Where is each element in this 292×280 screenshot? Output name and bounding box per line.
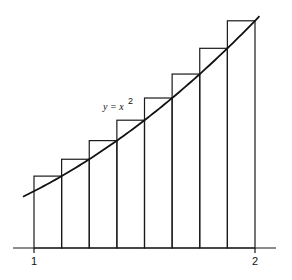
riemann-sum-diagram: 12 y = x 2 [0, 0, 292, 280]
riemann-rectangle [62, 159, 90, 248]
riemann-rectangle [117, 120, 145, 248]
x-tick-label: 2 [252, 255, 258, 267]
riemann-rectangle [200, 48, 228, 248]
x-tick-label: 1 [31, 255, 37, 267]
x-ticks-group: 12 [31, 248, 258, 267]
curve-label-text: y = x [102, 101, 124, 112]
riemann-rectangle [34, 176, 62, 248]
riemann-rectangle [172, 74, 200, 248]
rectangles-group [34, 21, 255, 248]
curve-label-exponent: 2 [128, 96, 133, 106]
riemann-rectangle [227, 21, 255, 248]
riemann-rectangle [145, 98, 173, 248]
curve-y-equals-x-squared [23, 16, 259, 197]
curve-label: y = x [102, 101, 124, 112]
